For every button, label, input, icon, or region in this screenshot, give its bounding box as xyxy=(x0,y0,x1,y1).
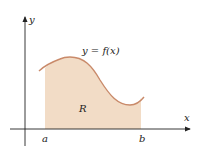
curve-label: y = f(x) xyxy=(81,45,120,56)
y-axis-label: y xyxy=(28,14,35,25)
area-diagram: y x y = f(x) R a b xyxy=(0,0,199,158)
bound-b-label: b xyxy=(139,133,145,144)
x-axis-label: x xyxy=(184,112,190,123)
region-r-fill xyxy=(45,57,141,129)
bound-a-label: a xyxy=(42,133,48,144)
region-label: R xyxy=(78,103,87,114)
